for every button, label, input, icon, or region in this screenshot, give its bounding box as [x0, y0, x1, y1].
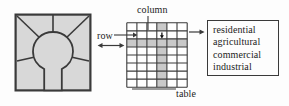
map-to-grid-arrowhead-left: [98, 43, 103, 48]
category-item-agricultural: agricultural: [213, 36, 278, 48]
category-item-industrial: industrial: [213, 61, 278, 73]
land-use-map: [14, 13, 92, 92]
map-to-grid-arrowhead-right: [120, 43, 125, 48]
diagram-canvas: residential agricultural commercial indu…: [0, 0, 289, 106]
label-column: column: [137, 4, 168, 15]
category-item-residential: residential: [213, 24, 278, 36]
land-use-categories-box: residential agricultural commercial indu…: [207, 20, 279, 76]
label-table: table: [176, 88, 196, 99]
label-row: row: [97, 30, 113, 41]
raster-grid: [126, 22, 188, 88]
grid-to-categories-arrowhead: [200, 30, 205, 35]
category-item-commercial: commercial: [213, 49, 278, 61]
